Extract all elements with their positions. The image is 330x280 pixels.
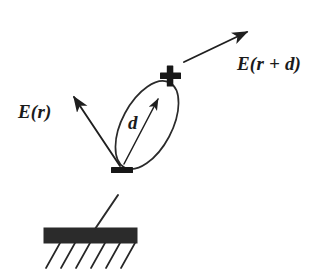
dipole-figure: E(r) E(r + d) d [0, 0, 330, 280]
dipole-body [102, 71, 191, 179]
negative-charge-icon [111, 167, 133, 173]
ground-bar [44, 228, 137, 243]
positive-charge-icon [160, 66, 181, 87]
label-field-at-r-plus-d: E(r + d) [237, 54, 301, 73]
label-separation-vector: d [128, 113, 138, 132]
label-field-at-r: E(r) [18, 102, 52, 121]
figure-drawing-canvas [0, 0, 330, 280]
ground-hatching [46, 243, 135, 268]
attachment-stem [95, 195, 118, 229]
field-arrow-r [74, 97, 120, 166]
